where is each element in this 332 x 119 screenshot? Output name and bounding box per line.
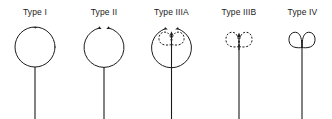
type-1-drawing bbox=[0, 20, 70, 119]
outer-circle-open bbox=[84, 28, 124, 67]
panel-type-2: Type II bbox=[70, 0, 138, 119]
arrowhead-outer-left-icon bbox=[164, 27, 168, 30]
panel-label-type-3a: Type IIIA bbox=[138, 7, 205, 18]
panel-art-type-3b bbox=[205, 20, 273, 119]
dashed-lobe-left bbox=[226, 32, 239, 47]
panel-label-type-3b: Type IIIB bbox=[205, 7, 273, 18]
outer-circle bbox=[15, 27, 55, 67]
arrowhead-left-icon bbox=[98, 26, 102, 29]
arrowhead-center-up-icon bbox=[170, 31, 174, 35]
diagram-figure: Type I Type II bbox=[0, 0, 332, 119]
panel-type-3b: Type IIIB bbox=[205, 0, 273, 119]
panel-art-type-1 bbox=[0, 20, 70, 119]
panel-type-4: Type IV bbox=[273, 0, 332, 119]
dashed-lobe-right bbox=[239, 32, 252, 47]
type-3b-drawing bbox=[205, 20, 273, 119]
arrowhead-right-icon bbox=[106, 26, 110, 29]
panel-label-type-2: Type II bbox=[70, 7, 138, 18]
solid-lobe-right bbox=[302, 32, 315, 48]
inner-dashed-lobe-right bbox=[172, 32, 185, 45]
arrowhead-center-up-icon bbox=[237, 32, 241, 37]
panel-type-1: Type I bbox=[0, 0, 70, 119]
panel-label-type-4: Type IV bbox=[273, 7, 332, 18]
panel-label-type-1: Type I bbox=[0, 7, 70, 18]
panel-art-type-2 bbox=[70, 20, 138, 119]
type-4-drawing bbox=[273, 20, 332, 119]
panel-art-type-4 bbox=[273, 20, 332, 119]
type-2-drawing bbox=[70, 20, 138, 119]
arrowhead-outer-right-icon bbox=[175, 27, 179, 30]
type-3a-drawing bbox=[138, 20, 205, 119]
inner-dashed-lobe-left bbox=[159, 32, 172, 45]
panel-art-type-3a bbox=[138, 20, 205, 119]
panel-type-3a: Type IIIA bbox=[138, 0, 205, 119]
solid-lobe-left bbox=[289, 32, 302, 48]
